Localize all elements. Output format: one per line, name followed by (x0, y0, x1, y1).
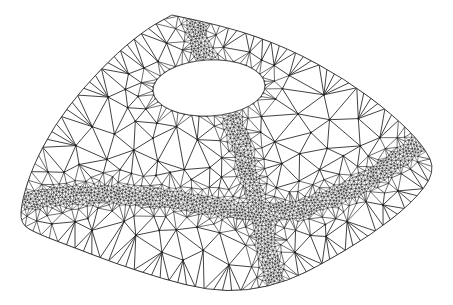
circular-hole-outline (152, 57, 267, 119)
figure-root (0, 0, 453, 305)
mesh-edge-layer (20, 16, 434, 291)
mesh-edges-level-1 (20, 16, 434, 291)
surface-mesh-figure (0, 0, 453, 305)
